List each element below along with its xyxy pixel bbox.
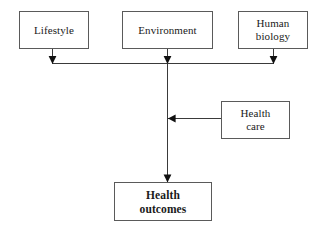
node-health-care: Health care (221, 101, 290, 139)
node-health-outcomes-label: Health outcomes (115, 188, 211, 216)
node-health-outcomes: Health outcomes (114, 182, 212, 221)
diagram-canvas: Lifestyle Environment Human biology Heal… (0, 0, 321, 231)
node-lifestyle-label: Lifestyle (20, 24, 88, 37)
node-human-biology: Human biology (238, 11, 308, 49)
node-lifestyle: Lifestyle (19, 11, 89, 49)
node-environment-label: Environment (123, 24, 212, 37)
node-human-biology-label: Human biology (239, 17, 307, 43)
node-environment: Environment (122, 11, 213, 49)
node-health-care-label: Health care (222, 107, 289, 133)
